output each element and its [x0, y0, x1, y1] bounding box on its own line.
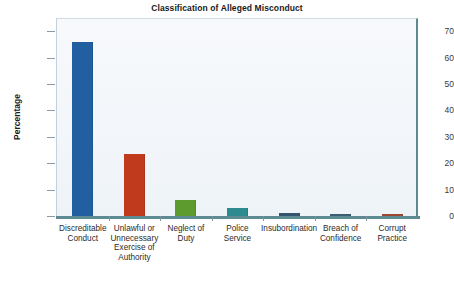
y-tick-label-20: 20	[414, 158, 454, 168]
bar[interactable]	[124, 154, 145, 216]
y-tick-60	[47, 58, 55, 59]
x-tick-label: CorruptPractice	[360, 224, 424, 243]
chart-title: Classification of Alleged Misconduct	[0, 3, 454, 13]
bar[interactable]	[330, 214, 351, 216]
y-tick-50	[47, 84, 55, 85]
bar[interactable]	[382, 214, 403, 216]
y-tick-70	[47, 31, 55, 32]
bar[interactable]	[227, 208, 248, 216]
x-tick	[212, 216, 213, 221]
y-tick-label-50: 50	[414, 79, 454, 89]
x-tick-label-line: Service	[206, 234, 270, 244]
bar-slot	[57, 18, 109, 216]
y-tick-10	[47, 190, 55, 191]
bar[interactable]	[279, 213, 300, 216]
x-tick	[315, 216, 316, 221]
bar-chart: Classification of Alleged Misconduct Per…	[0, 0, 454, 291]
bar-slot	[212, 18, 264, 216]
y-tick-0	[47, 216, 55, 217]
x-axis-line	[56, 216, 420, 219]
y-tick-label-0: 0	[414, 211, 454, 221]
y-tick-label-10: 10	[414, 185, 454, 195]
y-axis-title: Percentage	[12, 67, 22, 167]
y-tick-40	[47, 110, 55, 111]
y-tick-label-70: 70	[414, 26, 454, 36]
bar-slot	[263, 18, 315, 216]
y-tick-label-30: 30	[414, 132, 454, 142]
x-tick-label-line: Corrupt	[360, 224, 424, 234]
bar-slot	[366, 18, 418, 216]
bar[interactable]	[175, 200, 196, 216]
bar-slot	[109, 18, 161, 216]
bar[interactable]	[72, 42, 93, 216]
x-tick-label-line: Authority	[103, 253, 167, 263]
bar-series	[57, 18, 418, 216]
bar-slot	[160, 18, 212, 216]
x-tick	[366, 216, 367, 221]
x-tick-label-line: Exercise of	[103, 243, 167, 253]
y-tick-20	[47, 163, 55, 164]
x-tick	[109, 216, 110, 221]
x-tick-label-line: Practice	[360, 234, 424, 244]
y-tick-label-60: 60	[414, 53, 454, 63]
x-tick	[263, 216, 264, 221]
y-tick-30	[47, 137, 55, 138]
x-tick	[160, 216, 161, 221]
bar-slot	[315, 18, 367, 216]
y-tick-label-40: 40	[414, 105, 454, 115]
